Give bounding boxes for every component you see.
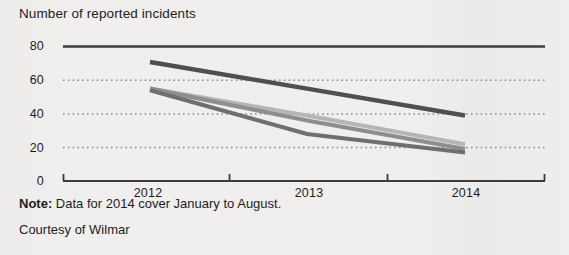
x-tick-label-2013: 2013	[277, 186, 341, 200]
y-tick-label-80: 80	[12, 39, 44, 53]
y-tick-label-60: 60	[12, 73, 44, 87]
chart-note-label: Note:	[19, 196, 52, 211]
chart-plot-area: 80 60 40 20 0 2012 2013 2014	[0, 0, 569, 200]
x-tick-label-2014: 2014	[434, 186, 498, 200]
chart-note: Note: Data for 2014 cover January to Aug…	[19, 196, 281, 211]
data-line-series-3	[150, 89, 465, 149]
y-tick-label-20: 20	[12, 141, 44, 155]
y-tick-label-40: 40	[12, 107, 44, 121]
data-line-series-1	[150, 62, 465, 116]
y-tick-label-0: 0	[12, 174, 44, 188]
line-chart-svg	[0, 0, 569, 200]
chart-courtesy: Courtesy of Wilmar	[19, 222, 130, 237]
chart-note-text: Data for 2014 cover January to August.	[52, 196, 281, 211]
